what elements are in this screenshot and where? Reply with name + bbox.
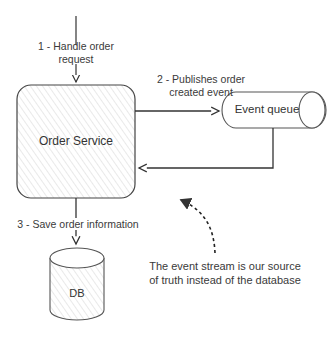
step2-label-line1: 2 - Publishes order bbox=[146, 73, 256, 86]
annotation-arrow bbox=[181, 200, 215, 253]
step1-label-line1: 1 - Handle order bbox=[30, 40, 122, 53]
step2-label-line2: created event bbox=[146, 86, 256, 99]
annotation-line2: of truth instead of the database bbox=[140, 274, 310, 288]
arrow-consume-event bbox=[139, 128, 273, 168]
step2-label: 2 - Publishes order created event bbox=[146, 73, 256, 99]
step1-label-line2: request bbox=[30, 53, 122, 66]
event-queue-label: Event queue bbox=[224, 103, 310, 115]
step3-label: 3 - Save order information bbox=[10, 218, 146, 231]
order-service-label: Order Service bbox=[17, 134, 135, 148]
db-cylinder bbox=[50, 248, 104, 320]
db-label: DB bbox=[50, 287, 104, 299]
annotation-line1: The event stream is our source bbox=[140, 260, 310, 274]
annotation-text: The event stream is our source of truth … bbox=[140, 260, 310, 287]
step1-label: 1 - Handle order request bbox=[30, 40, 122, 66]
